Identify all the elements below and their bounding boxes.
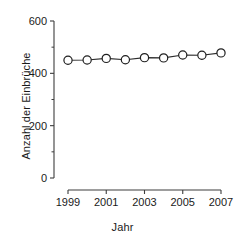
- x-tick-label: 2007: [209, 196, 233, 208]
- y-tick-label: 600: [29, 15, 47, 27]
- y-tick-label: 200: [29, 120, 47, 132]
- data-point-marker: [179, 51, 187, 59]
- y-tick-label: 0: [41, 172, 47, 184]
- series-markers: [64, 49, 225, 65]
- x-axis-major-ticks: [68, 190, 221, 194]
- x-tick-label: 1999: [56, 196, 80, 208]
- y-tick-label: 400: [29, 67, 47, 79]
- data-point-marker: [102, 54, 110, 62]
- data-point-marker: [140, 54, 148, 62]
- data-point-marker: [160, 54, 168, 62]
- chart-figure: Anzahl der Einbrüche Jahr 0200400600 199…: [0, 0, 245, 243]
- line-chart-plot: 0200400600 19992001200320052007: [0, 0, 245, 243]
- data-point-marker: [217, 49, 225, 57]
- data-point-marker: [121, 56, 129, 64]
- y-axis-tick-labels: 0200400600: [29, 15, 47, 184]
- data-point-marker: [83, 56, 91, 64]
- data-series: [64, 49, 225, 65]
- x-tick-label: 2001: [94, 196, 118, 208]
- y-axis: 0200400600: [29, 15, 54, 184]
- x-tick-label: 2003: [132, 196, 156, 208]
- x-tick-label: 2005: [171, 196, 195, 208]
- x-axis: 19992001200320052007: [56, 190, 233, 208]
- x-axis-tick-labels: 19992001200320052007: [56, 196, 233, 208]
- data-point-marker: [198, 51, 206, 59]
- data-point-marker: [64, 56, 72, 64]
